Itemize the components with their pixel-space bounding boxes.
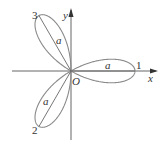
radius-label-1: a — [105, 59, 111, 71]
petal-label-1: 1 — [136, 59, 142, 71]
y-axis-label: y — [62, 9, 68, 21]
x-axis-label: x — [147, 72, 153, 84]
rose-curve-diagram: 3 1 2 a a a y x O — [0, 0, 168, 145]
petal-label-3: 3 — [32, 9, 38, 21]
radius-line-3 — [39, 16, 71, 71]
radius-label-2: a — [43, 95, 49, 107]
petal-label-2: 2 — [32, 124, 38, 136]
radius-label-3: a — [56, 34, 62, 46]
origin-label: O — [72, 75, 80, 87]
y-axis-arrow-icon — [69, 8, 74, 17]
